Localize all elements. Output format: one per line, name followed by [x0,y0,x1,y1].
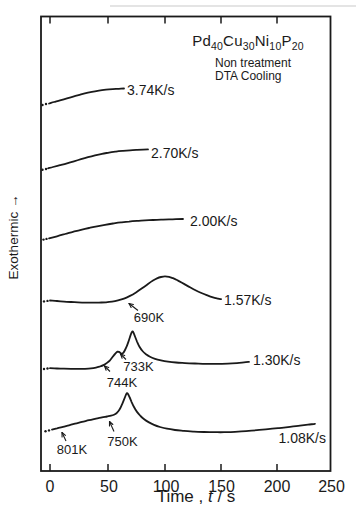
formula-element: Cu [223,32,243,49]
plot-frame [41,17,331,472]
formula-segments: Pd40Cu30Ni10P20 [192,32,304,49]
alloy-composition-label: Pd40Cu30Ni10P20 [192,32,304,52]
dta-curve-2.00K/s [49,219,183,238]
formula-element: P [281,32,291,49]
curve-lead-dot [45,238,47,240]
note-dta-cooling: DTA Cooling [215,70,281,83]
note-non-treatment: Non treatment [215,57,291,70]
formula-element: Ni [255,32,270,49]
curve-lead-dot [41,169,43,171]
curve-lead-dot [41,104,43,106]
curve-lead-dot [45,168,47,170]
x-tick-label-50: 50 [100,478,118,496]
y-axis-label: Exothermic → [6,195,21,280]
dta-curve-1.57K/s [50,276,221,302]
cooling-rate-label-2.00K/s: 2.00K/s [190,213,237,229]
chart-svg [0,0,357,528]
formula-element: Pd [192,32,211,49]
curve-lead-dot [43,368,45,370]
formula-subscript: 40 [211,40,223,52]
formula-subscript: 20 [292,40,304,52]
curve-lead-dot [44,430,46,432]
curve-lead-dot [46,367,48,369]
curve-lead-dot [46,300,48,302]
cooling-rate-label-1.08K/s: 1.08K/s [279,430,326,446]
formula-subscript: 30 [243,40,255,52]
dta-cooling-figure: Pd40Cu30Ni10P20 Non treatment DTA Coolin… [0,0,357,528]
cooling-rate-label-1.30K/s: 1.30K/s [253,352,300,368]
cooling-rate-label-1.57K/s: 1.57K/s [224,292,271,308]
curve-lead-dot [45,103,47,105]
dta-curve-3.74K/s [49,89,124,104]
x-tick-label-0: 0 [46,478,55,496]
temperature-annotation-744K: 744K [107,374,137,389]
x-tick-label-100: 100 [153,478,180,496]
dta-curve-1.08K/s [52,393,315,432]
curve-lead-dot [48,429,50,431]
temperature-annotation-733K: 733K [123,358,153,373]
temperature-annotation-801K: 801K [57,442,87,457]
dta-curve-2.70K/s [48,149,148,168]
curve-lead-dot [43,300,45,302]
x-tick-label-250: 250 [318,478,345,496]
x-tick-label-200: 200 [264,478,291,496]
x-tick-label-150: 150 [208,478,235,496]
temperature-annotation-750K: 750K [107,433,137,448]
curve-lead-dot [42,238,44,240]
formula-subscript: 10 [269,40,281,52]
temperature-annotation-690K: 690K [134,310,164,325]
cooling-rate-label-2.70K/s: 2.70K/s [151,145,198,161]
cooling-rate-label-3.74K/s: 3.74K/s [127,82,174,98]
